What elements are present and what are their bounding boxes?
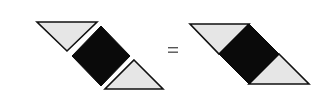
equals-bar-top: [168, 47, 178, 48]
equals-bar-bottom: [168, 52, 178, 53]
shape-equation-diagram: [0, 0, 329, 112]
right-figure: [190, 24, 309, 84]
equals-sign: [168, 47, 178, 53]
left-figure: [37, 22, 163, 89]
